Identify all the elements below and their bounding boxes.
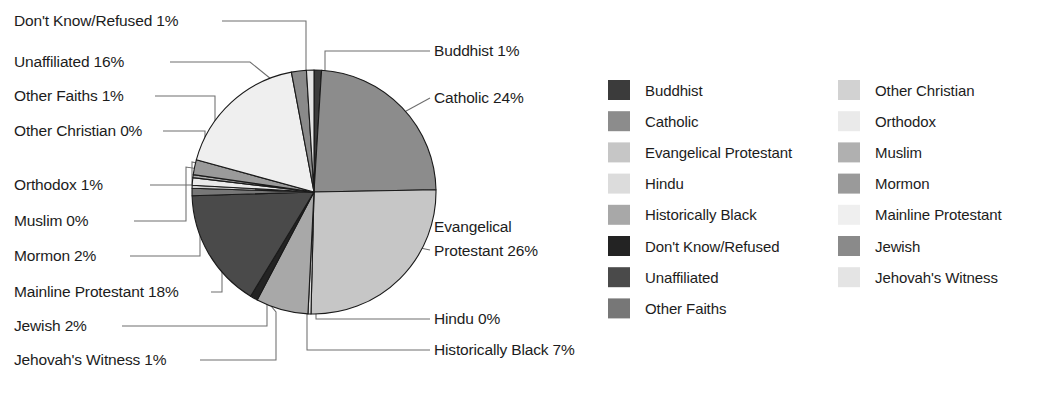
legend-swatch-hindu [608, 174, 630, 194]
legend-swatch-mainline-protestant [838, 205, 860, 225]
callout-dont-know-refused: Don't Know/Refused 1% [14, 12, 179, 29]
callout-mainline-protestant: Mainline Protestant 18% [14, 283, 179, 300]
legend-label-catholic: Catholic [645, 113, 699, 130]
legend-label-other-christian: Other Christian [875, 82, 974, 99]
legend-label-other-faiths: Other Faiths [645, 300, 726, 317]
legend-label-mormon: Mormon [875, 175, 929, 192]
legend-item-historically-black[interactable]: Historically Black [608, 205, 757, 225]
legend-swatch-catholic [608, 111, 630, 131]
legend-item-evangelical-protestant[interactable]: Evangelical Protestant [608, 142, 793, 162]
callout-evangelical-protestant-line1: Evangelical [434, 218, 512, 235]
callout-catholic: Catholic 24% [434, 89, 524, 106]
legend-swatch-evangelical-protestant [608, 142, 630, 162]
legend-label-evangelical-protestant: Evangelical Protestant [645, 144, 793, 161]
legend-swatch-don-t-know-refused [608, 236, 630, 256]
pie-slice-catholic[interactable] [314, 70, 436, 192]
callout-hindu: Hindu 0% [434, 310, 500, 327]
legend-label-hindu: Hindu [645, 175, 684, 192]
callout-other-faiths: Other Faiths 1% [14, 87, 124, 104]
callout-unaffiliated: Unaffiliated 16% [14, 53, 125, 70]
callout-orthodox: Orthodox 1% [14, 176, 103, 193]
legend-swatch-jehovah-s-witness [838, 267, 860, 287]
legend-item-hindu[interactable]: Hindu [608, 174, 684, 194]
legend-label-don-t-know-refused: Don't Know/Refused [645, 238, 779, 255]
legend-swatch-other-christian [838, 80, 860, 100]
legend-label-historically-black: Historically Black [645, 206, 757, 223]
chart-canvas: Don't Know/Refused 1%Unaffiliated 16%Oth… [0, 0, 1037, 396]
callout-mormon: Mormon 2% [14, 247, 97, 264]
legend-swatch-unaffiliated [608, 267, 630, 287]
callout-muslim: Muslim 0% [14, 212, 89, 229]
legend-swatch-mormon [838, 174, 860, 194]
legend-swatch-buddhist [608, 80, 630, 100]
legend-swatch-jewish [838, 236, 860, 256]
legend-item-jehovah-s-witness[interactable]: Jehovah's Witness [838, 267, 998, 287]
legend-label-orthodox: Orthodox [875, 113, 936, 130]
legend-label-muslim: Muslim [875, 144, 922, 161]
legend-item-jewish[interactable]: Jewish [838, 236, 920, 256]
leader-hindu [316, 314, 430, 319]
callout-evangelical-protestant-line2: Protestant 26% [434, 242, 538, 259]
legend-label-buddhist: Buddhist [645, 82, 704, 99]
callout-jehovahs-witness: Jehovah's Witness 1% [14, 351, 167, 368]
legend-item-muslim[interactable]: Muslim [838, 142, 922, 162]
legend-item-other-christian[interactable]: Other Christian [838, 80, 974, 100]
leader-buddhist [325, 51, 430, 72]
legend-item-buddhist[interactable]: Buddhist [608, 80, 704, 100]
legend-item-don-t-know-refused[interactable]: Don't Know/Refused [608, 236, 779, 256]
legend-item-mainline-protestant[interactable]: Mainline Protestant [838, 205, 1002, 225]
legend-item-catholic[interactable]: Catholic [608, 111, 699, 131]
legend-swatch-other-faiths [608, 298, 630, 318]
legend-label-mainline-protestant: Mainline Protestant [875, 206, 1002, 223]
pie-chart-figure: Don't Know/Refused 1%Unaffiliated 16%Oth… [0, 0, 1037, 396]
callout-historically-black: Historically Black 7% [434, 341, 575, 358]
legend-item-unaffiliated[interactable]: Unaffiliated [608, 267, 719, 287]
leader-dont-know-refused [222, 21, 306, 70]
pie-slice-evangelical-protestant[interactable] [311, 190, 436, 314]
callout-other-christian: Other Christian 0% [14, 122, 143, 139]
legend-label-jewish: Jewish [875, 238, 920, 255]
legend-group: BuddhistCatholicEvangelical ProtestantHi… [608, 80, 1002, 318]
pie-slices-group [192, 70, 436, 314]
legend-label-unaffiliated: Unaffiliated [645, 269, 719, 286]
legend-swatch-orthodox [838, 111, 860, 131]
legend-swatch-muslim [838, 142, 860, 162]
callout-buddhist: Buddhist 1% [434, 42, 520, 59]
legend-swatch-historically-black [608, 205, 630, 225]
leader-jehovahs-witness [200, 300, 276, 360]
legend-label-jehovah-s-witness: Jehovah's Witness [875, 269, 998, 286]
callout-jewish: Jewish 2% [14, 317, 87, 334]
legend-item-other-faiths[interactable]: Other Faiths [608, 298, 726, 318]
legend-item-mormon[interactable]: Mormon [838, 174, 929, 194]
legend-item-orthodox[interactable]: Orthodox [838, 111, 936, 131]
